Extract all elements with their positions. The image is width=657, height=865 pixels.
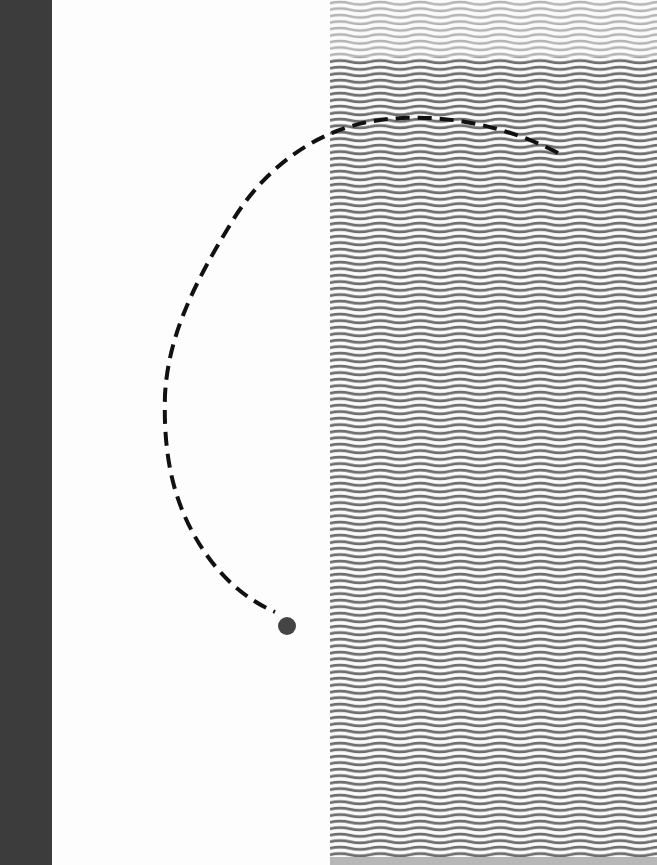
dashed-arc [165, 118, 558, 612]
end-dot [278, 617, 296, 635]
arc-overlay [0, 0, 657, 865]
